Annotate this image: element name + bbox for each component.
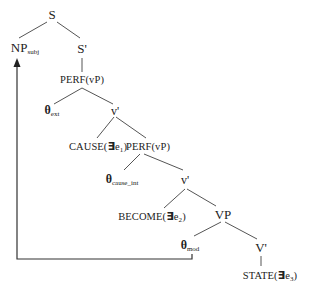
edge-vbar1-perf2 — [116, 117, 146, 138]
node-label: STATE( — [243, 270, 278, 281]
node-label: BECOME( — [118, 211, 166, 222]
node-label: v' — [111, 104, 119, 118]
node-become: BECOME(∃e2) — [118, 211, 186, 224]
node-subscript: ext — [51, 110, 60, 118]
node-s: S — [48, 8, 55, 21]
node-label: v' — [181, 173, 189, 187]
node-label-close: ) — [182, 211, 186, 222]
node-label: PERF(vP) — [60, 74, 104, 85]
node-v-bar-1: v' — [111, 105, 119, 117]
edge-vp-vbarbig — [225, 222, 257, 239]
node-subscript: mod — [187, 245, 199, 253]
node-label: S — [48, 7, 55, 22]
edge-vbar2-vp — [187, 189, 216, 206]
node-v-bar-2: v' — [181, 174, 189, 186]
node-subscript: cause_int — [112, 179, 138, 187]
node-theta-mod: θmod — [181, 239, 200, 253]
edge-vp-thetamod — [194, 222, 221, 236]
node-vp: VP — [215, 208, 232, 221]
node-s-bar: S' — [77, 42, 87, 55]
edge-s-np — [19, 22, 47, 38]
node-label: V' — [255, 240, 267, 255]
node-state: STATE(∃e3) — [243, 270, 297, 283]
arrowhead-icon — [14, 58, 21, 67]
node-label: PERF(vP) — [126, 141, 170, 152]
node-perf-vp-1: PERF(vP) — [60, 75, 104, 86]
movement-arrow — [17, 64, 192, 259]
edge-s-sbar — [57, 22, 80, 38]
node-theta-ext: θext — [45, 104, 60, 118]
node-v-bar-big: V' — [255, 241, 267, 254]
node-subscript: subj — [27, 48, 39, 56]
exists-symbol: ∃ — [166, 210, 174, 223]
node-label: VP — [215, 207, 232, 222]
node-cause: CAUSE(∃e1) — [69, 141, 127, 154]
node-perf-vp-2: PERF(vP) — [126, 142, 170, 153]
node-label: S' — [77, 41, 87, 56]
node-label-close: ) — [294, 270, 298, 281]
node-np-subj: NPsubj — [11, 41, 39, 56]
edge-vbar1-cause — [97, 117, 114, 138]
edge-perf1-thetaext — [54, 88, 82, 104]
node-label: NP — [11, 40, 28, 55]
edge-perf2-vbar2 — [144, 154, 183, 170]
node-theta-cause-int: θcause_int — [106, 173, 139, 187]
node-label: CAUSE( — [69, 141, 108, 152]
edge-perf1-vbar1 — [82, 88, 113, 104]
edge-vbar2-become — [164, 189, 185, 208]
edge-perf2-thetacause — [124, 154, 140, 170]
